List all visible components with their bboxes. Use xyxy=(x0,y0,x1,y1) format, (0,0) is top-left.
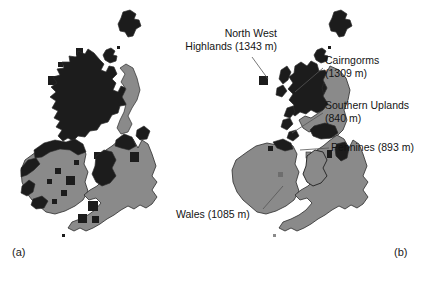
panel-a: (a) xyxy=(0,0,211,281)
annotation-cairngorms: Cairngorms (1309 m) xyxy=(325,54,419,79)
annotation-wales: Wales (1085 m) xyxy=(176,208,264,221)
annotation-north-west-highlands: North West Highlands (1343 m) xyxy=(181,27,277,52)
shetland-upland-a xyxy=(118,10,141,37)
shetland-upland-b xyxy=(329,10,352,37)
map-british-isles-panel-a xyxy=(0,0,211,281)
panel-b-caption: (b) xyxy=(394,246,407,258)
annotation-pennines: Pennines (893 m) xyxy=(331,141,421,154)
figure-root: (a) xyxy=(0,0,422,281)
ireland-lowland-b xyxy=(232,142,299,214)
scilly-isles-b xyxy=(273,234,276,237)
annotation-southern-uplands: Southern Uplands (840 m) xyxy=(325,99,421,124)
orkney-upland-a xyxy=(103,46,120,63)
panel-a-caption: (a) xyxy=(12,246,25,258)
outer-hebrides-b xyxy=(259,66,291,97)
